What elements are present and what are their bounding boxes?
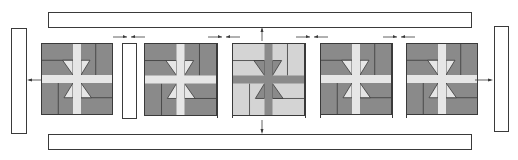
sashing-1 bbox=[123, 44, 137, 119]
quilt-block-5 bbox=[406, 43, 478, 115]
quilt-assembly-diagram bbox=[0, 0, 518, 160]
border-strip-bottom bbox=[49, 135, 472, 150]
top-border-arrow bbox=[261, 27, 264, 41]
border-strip-top bbox=[49, 13, 472, 28]
left-border-arrow bbox=[27, 79, 41, 82]
border-strip-left bbox=[12, 29, 27, 134]
join-arrow-4 bbox=[383, 35, 415, 38]
border-strip-right bbox=[495, 27, 509, 132]
quilt-block-1 bbox=[41, 43, 113, 115]
sashing-4 bbox=[393, 44, 407, 119]
quilt-block-4 bbox=[320, 43, 392, 115]
quilt-block-3 bbox=[232, 43, 305, 116]
join-arrow-1 bbox=[113, 35, 145, 38]
bottom-border-arrow bbox=[261, 120, 264, 134]
quilt-diagram-canvas bbox=[0, 0, 518, 160]
sashing-3 bbox=[306, 44, 321, 119]
join-arrow-2 bbox=[208, 35, 240, 38]
sashing-2 bbox=[218, 44, 233, 119]
quilt-block-2 bbox=[144, 43, 217, 116]
join-arrow-3 bbox=[296, 35, 328, 38]
